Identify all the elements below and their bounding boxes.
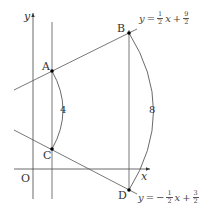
coordinate-diagram	[0, 0, 210, 220]
point-B	[127, 31, 131, 35]
lower-line	[14, 130, 137, 194]
upper-line-equation: y = 12 x + 92	[139, 11, 189, 25]
lower-line-equation: y = − 12 x + 32	[138, 190, 199, 204]
label-C: C	[43, 150, 51, 161]
point-A	[50, 69, 54, 73]
point-D	[127, 188, 131, 192]
length-BD-label: 8	[149, 105, 155, 115]
y-axis-label: y	[24, 11, 30, 22]
upper-line	[14, 29, 137, 90]
length-AC-label: 4	[60, 105, 66, 115]
label-B: B	[117, 23, 125, 34]
origin-label: O	[21, 173, 30, 184]
x-axis-label: x	[141, 171, 147, 182]
label-A: A	[42, 61, 50, 72]
label-D: D	[118, 190, 127, 201]
